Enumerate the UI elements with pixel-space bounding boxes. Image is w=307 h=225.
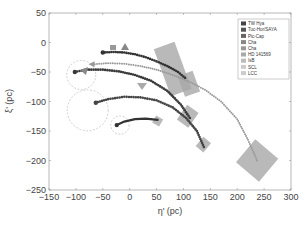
track-point	[186, 80, 188, 82]
track-point	[198, 86, 200, 88]
x-tick-label: −100	[66, 192, 86, 202]
start-marker	[73, 70, 77, 74]
track-point	[151, 98, 154, 101]
track-point	[252, 151, 254, 153]
track-point	[208, 91, 210, 93]
track-point	[88, 68, 91, 71]
track-point	[112, 62, 114, 64]
track-point	[194, 84, 196, 86]
track-point	[244, 133, 246, 135]
legend-label: Pic-Cap	[248, 34, 265, 39]
legend-label: SCL	[248, 65, 257, 70]
track-point	[139, 96, 142, 99]
track-point	[148, 98, 151, 101]
track-point	[109, 98, 112, 101]
track-point	[176, 76, 178, 78]
track-point	[133, 64, 135, 66]
track-point	[92, 68, 95, 71]
track-point	[226, 107, 228, 109]
track-point	[121, 96, 124, 99]
track-point	[108, 69, 111, 72]
y-tick-label: 0	[41, 38, 46, 48]
legend-label: Cha	[248, 46, 257, 51]
track-point	[116, 62, 118, 64]
track-point	[116, 96, 119, 99]
track-point	[114, 97, 117, 100]
track-point	[189, 117, 192, 120]
legend-swatch	[241, 40, 246, 44]
track-point	[249, 143, 251, 145]
y-tick-label: −100	[26, 97, 46, 107]
track-point	[172, 74, 174, 76]
track-point	[141, 66, 143, 68]
track-point	[224, 105, 226, 107]
track-point	[206, 90, 208, 92]
y-axis-label: ξ' (pc)	[4, 89, 14, 113]
track-point	[192, 83, 194, 85]
start-marker	[94, 100, 98, 104]
track-point	[90, 68, 93, 71]
track-point	[238, 122, 240, 124]
y-tick-label: −150	[26, 126, 46, 136]
x-axis-label: η' (pc)	[158, 206, 183, 216]
legend-swatch	[241, 71, 246, 75]
track-point	[152, 68, 154, 70]
track-point	[237, 120, 239, 122]
track-point	[255, 157, 257, 159]
track-point	[168, 73, 170, 75]
track-point	[166, 72, 168, 74]
square-marker	[110, 45, 116, 50]
track-point	[147, 67, 149, 69]
track-point	[121, 63, 123, 65]
x-tick-label: 50	[152, 192, 162, 202]
track-point	[174, 75, 176, 77]
track-point	[251, 147, 253, 149]
track-point	[146, 97, 149, 100]
track-point	[109, 62, 111, 64]
track-point	[107, 98, 110, 101]
track-point	[230, 112, 232, 114]
track-point	[218, 99, 220, 101]
track-point	[125, 96, 128, 99]
track-point	[217, 98, 219, 100]
track-point	[243, 131, 245, 133]
track-point	[240, 126, 242, 128]
track-point	[247, 139, 249, 141]
legend-label: Tuc-Hor/SAYA	[248, 27, 277, 32]
track-point	[105, 62, 107, 64]
legend-swatch	[241, 65, 246, 69]
track-point	[135, 96, 138, 99]
y-tick-label: 50	[36, 8, 46, 18]
track-point	[95, 68, 98, 71]
x-tick-label: 250	[257, 192, 272, 202]
track-point	[227, 109, 229, 111]
track-point	[97, 68, 100, 71]
track-point	[200, 87, 202, 89]
legend-label: HD 141569	[248, 52, 271, 57]
legend-swatch	[241, 59, 246, 63]
track-point	[99, 68, 102, 71]
track-point	[182, 78, 184, 80]
track-point	[233, 115, 235, 117]
track-point	[158, 69, 160, 71]
y-tick-label: −250	[26, 185, 46, 195]
track-point	[220, 101, 222, 103]
track-point	[239, 124, 241, 126]
track-point	[111, 97, 114, 100]
track-point	[96, 63, 98, 65]
track-point	[153, 99, 156, 102]
track-point	[115, 70, 118, 73]
track-point	[106, 69, 109, 72]
track-point	[123, 63, 125, 65]
track-point	[223, 104, 225, 106]
track-point	[160, 70, 162, 72]
track-point	[252, 149, 254, 151]
x-tick-label: 0	[127, 192, 132, 202]
track-point	[202, 88, 204, 90]
track-point	[107, 62, 109, 64]
legend-swatch	[241, 53, 246, 57]
track-point	[215, 97, 217, 99]
track-point	[154, 68, 156, 70]
start-marker	[115, 123, 119, 127]
track-point	[137, 96, 140, 99]
